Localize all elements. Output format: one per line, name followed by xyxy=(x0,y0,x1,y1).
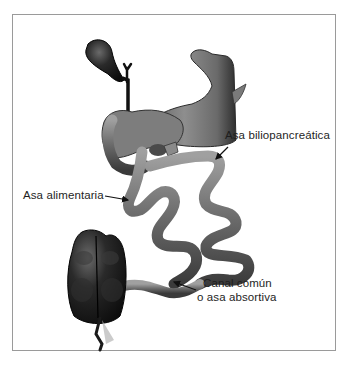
label-alimentary-limb: Asa alimentaria xyxy=(23,188,104,202)
anatomy-illustration xyxy=(0,0,349,366)
common-channel xyxy=(124,284,200,293)
label-common-channel-line2: o asa absortiva xyxy=(197,290,277,304)
label-biliopancreatic-limb: Asa biliopancreática xyxy=(225,128,330,142)
gallbladder xyxy=(86,40,124,82)
alimentary-limb xyxy=(128,152,196,284)
cecum xyxy=(68,230,126,324)
label-common-channel-line1: Canal común xyxy=(203,276,272,290)
